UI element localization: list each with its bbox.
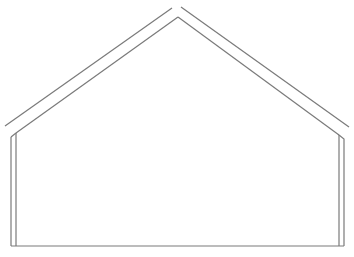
outer-roof-right-line (181, 7, 349, 127)
left-outer-wall-top (11, 133, 16, 137)
inner-roof-left-line (16, 17, 178, 133)
right-outer-wall-line (339, 135, 344, 246)
inner-roof-right-line (178, 17, 339, 135)
house-diagram (0, 0, 354, 257)
outer-roof-left-line (5, 8, 172, 126)
